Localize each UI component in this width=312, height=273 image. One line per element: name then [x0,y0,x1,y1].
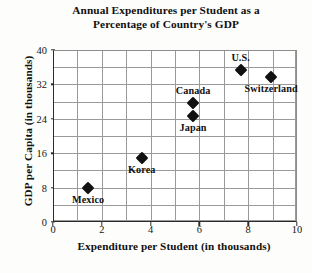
data-point-label-japan: Japan [180,122,207,133]
data-point-label-korea: Korea [128,164,155,175]
plot-area: MexicoKoreaJapanCanadaU.S.Switzerland [53,50,297,222]
data-point-label-mexico: Mexico [72,194,104,205]
y-tick-label: 32 [37,79,51,90]
x-tick-mark [150,222,151,226]
chart-title-line-1: Annual Expenditures per Student as a [34,3,298,17]
chart-title: Annual Expenditures per Student as a Per… [34,3,298,31]
data-point-label-canada: Canada [176,85,211,96]
y-tick-label: 8 [42,182,51,193]
x-tick-mark [296,222,297,226]
y-tick-label: 40 [37,45,51,56]
chart-title-line-2: Percentage of Country's GDP [34,17,298,31]
x-axis-title: Expenditure per Student (in thousands) [40,240,308,252]
data-point-label-switzerland: Switzerland [245,83,298,94]
x-tick-mark [52,222,53,226]
x-axis-tick-labels: 0246810 [53,224,297,240]
x-tick-mark [247,222,248,226]
x-tick-mark [199,222,200,226]
x-tick-mark [101,222,102,226]
y-tick-label: 16 [37,148,51,159]
y-tick-label: 24 [37,113,51,124]
chart-figure: Annual Expenditures per Student as a Per… [0,0,312,273]
y-axis-tick-labels: 0816243240 [26,50,51,222]
data-point-label-u-s: U.S. [231,52,250,63]
